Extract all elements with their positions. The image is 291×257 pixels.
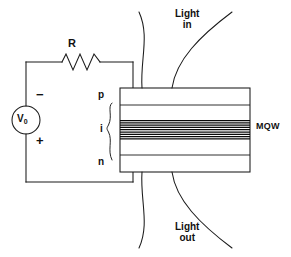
layer-label-n: n [98,157,104,168]
layer-label-i: i [100,124,103,135]
light-out-line2: out [175,233,199,244]
light-in-line2: in [175,20,199,31]
layer-label-p: p [98,90,104,101]
light-in-label: Lightin [175,9,199,30]
light-in-line1: Light [175,8,199,19]
resistor-label: R [68,38,76,50]
light-out-label: Lightout [175,222,199,243]
voltage-source-subscript: 0 [24,118,28,125]
terminal-positive-label: + [36,134,44,148]
mqw-device-group [120,88,250,172]
terminal-negative-label: − [36,88,44,102]
voltage-source-symbol: V [17,113,24,124]
resistor-zigzag-icon [62,54,100,70]
diagram-canvas [0,0,291,257]
figure-root: R V0 − + p i n MQW Lightin Lightout [0,0,291,257]
beam-in-left-edge [139,12,144,88]
quantum-well-stripe [120,121,250,139]
i-region-brace-icon [107,103,112,160]
light-out-line1: Light [175,221,199,232]
beam-out-left-edge [139,172,144,248]
circuit-group [12,54,133,182]
voltage-source-label: V0 [17,114,28,125]
mqw-label: MQW [256,122,280,131]
